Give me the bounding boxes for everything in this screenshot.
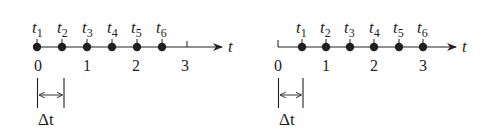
point-t4 bbox=[370, 39, 378, 51]
point-t6 bbox=[158, 39, 166, 51]
point-labels: t1 t2 t3 t4 t5 t6 bbox=[296, 18, 428, 40]
delta-t-label: Δt bbox=[38, 110, 54, 129]
point-t4 bbox=[108, 39, 116, 51]
point-t1 bbox=[298, 39, 306, 51]
svg-text:t4: t4 bbox=[107, 18, 118, 40]
tick-label-0: 0 bbox=[274, 57, 282, 74]
svg-text:t5: t5 bbox=[393, 18, 404, 40]
tick-label-2: 2 bbox=[370, 57, 378, 74]
point-t1 bbox=[33, 39, 41, 51]
point-labels: t1 t2 t3 t4 t5 t6 bbox=[32, 18, 167, 40]
tick-label-1: 1 bbox=[83, 57, 91, 74]
tick-labels: 0 1 2 3 bbox=[34, 57, 189, 74]
svg-text:t6: t6 bbox=[417, 18, 428, 40]
axis-variable-label: t bbox=[462, 37, 468, 56]
tick-label-3: 3 bbox=[419, 57, 427, 74]
svg-text:t1: t1 bbox=[296, 18, 307, 40]
delta-t-bracket: Δt bbox=[279, 78, 304, 129]
point-t2 bbox=[58, 39, 66, 51]
svg-text:t6: t6 bbox=[156, 18, 167, 40]
tick-label-2: 2 bbox=[132, 57, 140, 74]
point-t3 bbox=[346, 39, 354, 51]
svg-text:t4: t4 bbox=[369, 18, 380, 40]
point-t6 bbox=[419, 39, 427, 51]
svg-text:t2: t2 bbox=[57, 18, 68, 40]
svg-text:t3: t3 bbox=[344, 18, 355, 40]
tick-label-0: 0 bbox=[34, 57, 42, 74]
tick-label-3: 3 bbox=[181, 57, 189, 74]
axis-variable-label: t bbox=[228, 37, 234, 56]
time-points bbox=[33, 39, 166, 51]
point-t2 bbox=[322, 39, 330, 51]
right-timeline: t t1 t2 t3 t4 t5 t6 0 1 2 3 bbox=[274, 18, 468, 129]
point-t5 bbox=[395, 39, 403, 51]
time-points bbox=[298, 39, 427, 51]
timeline-diagrams: t t1 t2 t3 t4 t5 t6 0 1 2 3 bbox=[0, 0, 495, 139]
svg-text:t2: t2 bbox=[320, 18, 331, 40]
delta-t-bracket: Δt bbox=[38, 78, 65, 129]
svg-text:t1: t1 bbox=[32, 18, 43, 40]
svg-text:t3: t3 bbox=[82, 18, 93, 40]
point-t5 bbox=[133, 39, 141, 51]
tick-label-1: 1 bbox=[322, 57, 330, 74]
svg-text:t5: t5 bbox=[131, 18, 142, 40]
point-t3 bbox=[83, 39, 91, 51]
left-timeline: t t1 t2 t3 t4 t5 t6 0 1 2 3 bbox=[32, 18, 234, 129]
delta-t-label: Δt bbox=[279, 110, 295, 129]
tick-labels: 0 1 2 3 bbox=[274, 57, 427, 74]
